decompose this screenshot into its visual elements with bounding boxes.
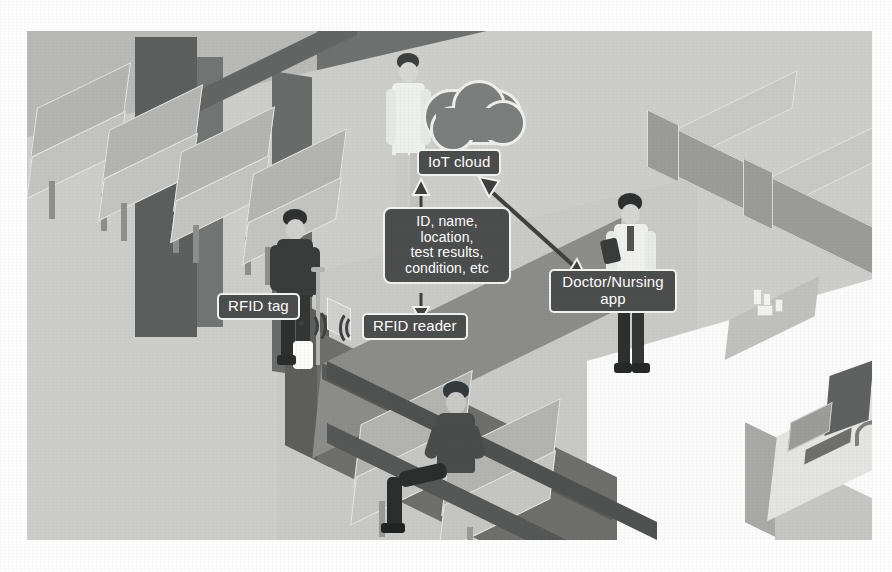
crutch-shaft — [316, 269, 320, 365]
shoe-left — [277, 355, 296, 365]
head — [399, 62, 418, 83]
hospital-iot-illustration: IoT cloud ID, name, location, test resul… — [27, 31, 872, 540]
payload-line-4: condition, etc — [405, 260, 489, 276]
scanned-page: IoT cloud ID, name, location, test resul… — [0, 0, 892, 572]
head — [621, 204, 640, 225]
label-data-payload[interactable]: ID, name, location, test results, condit… — [383, 207, 511, 284]
payload-line-1: ID, name, — [416, 213, 478, 229]
leg-cast — [293, 341, 313, 369]
shoe — [381, 523, 405, 533]
necktie — [627, 226, 634, 251]
label-doctor-nursing-app[interactable]: Doctor/Nursing app — [549, 269, 677, 313]
app-line-1: Doctor/Nursing — [562, 273, 663, 290]
bench-leg-2 — [467, 527, 473, 540]
label-rfid-tag[interactable]: RFID tag — [217, 293, 300, 320]
leg-left — [396, 153, 408, 215]
person-patient-seated — [417, 381, 497, 521]
app-line-2: app — [600, 290, 625, 307]
shoe-left — [614, 363, 632, 373]
payload-line-2: location, — [420, 229, 473, 245]
bottle-3 — [775, 299, 783, 312]
arm-left — [270, 245, 282, 291]
bottle-1 — [753, 289, 762, 305]
arm-right — [421, 89, 431, 145]
tray-item — [757, 305, 773, 316]
head — [286, 219, 305, 240]
label-rfid-reader[interactable]: RFID reader — [362, 313, 468, 340]
crutch-handle — [311, 267, 325, 272]
shin — [387, 477, 402, 529]
label-iot-cloud[interactable]: IoT cloud — [417, 149, 501, 176]
payload-line-3: test results, — [411, 244, 484, 260]
necktie — [405, 85, 412, 111]
head — [446, 392, 466, 414]
arm-left — [386, 89, 396, 145]
shoe-right — [632, 363, 650, 373]
